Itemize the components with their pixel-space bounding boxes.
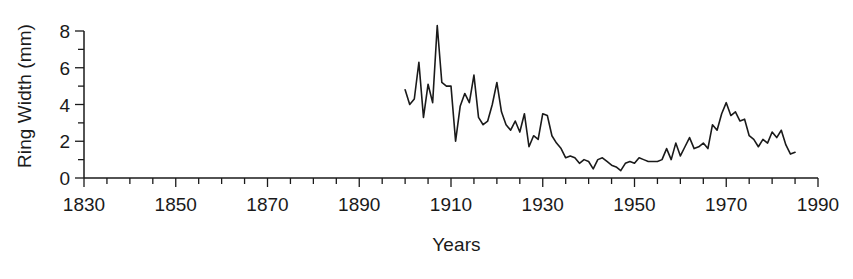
y-axis-tick-labels: 02468	[59, 21, 70, 189]
tick-label: 1870	[246, 194, 288, 215]
tick-label: 1910	[430, 194, 472, 215]
ring-width-data-line	[405, 25, 795, 170]
ring-width-chart-figure: 183018501870189019101930195019701990 024…	[0, 0, 853, 279]
tick-label: 1890	[338, 194, 380, 215]
y-axis-ticks	[75, 31, 84, 178]
x-axis-ticks	[84, 178, 818, 187]
tick-label: 4	[59, 95, 70, 116]
tick-label: 2	[59, 131, 70, 152]
x-axis-title: Years	[0, 234, 853, 256]
tick-label: 0	[59, 168, 70, 189]
axis-lines	[84, 31, 818, 178]
tick-label: 1830	[63, 194, 105, 215]
tick-label: 1930	[522, 194, 564, 215]
y-axis-title: Ring Width (mm)	[14, 6, 36, 186]
tick-label: 1970	[705, 194, 747, 215]
tick-label: 1950	[613, 194, 655, 215]
tick-label: 1990	[797, 194, 839, 215]
tick-label: 8	[59, 21, 70, 42]
tick-label: 6	[59, 58, 70, 79]
x-axis-tick-labels: 183018501870189019101930195019701990	[63, 194, 839, 215]
tick-label: 1850	[155, 194, 197, 215]
